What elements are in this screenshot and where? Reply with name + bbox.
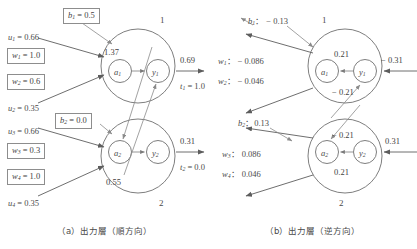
panel-a-node-a1-label: a1 xyxy=(114,68,121,78)
panel-a-node-y1-label: y1 xyxy=(152,68,159,78)
panel-a-input-u1: u1 = 0.66 xyxy=(8,33,39,43)
weight-subscript: 1 xyxy=(18,54,21,60)
node-subscript: 2 xyxy=(156,152,159,158)
panel-b-grad-in-2: 0.31 xyxy=(385,137,400,146)
panel-b-neuron-2-index: 2 xyxy=(339,199,344,208)
weight-value: ： 0.086 xyxy=(231,149,261,159)
panel-a-weight-w1-box: w1 = 1.0 xyxy=(7,48,45,64)
panel-a-caption: （a）出力層（順方向） xyxy=(57,227,152,236)
panel-a-node-y2-label: y2 xyxy=(152,149,159,159)
panel-a-output-2: 0.31 xyxy=(180,137,195,146)
bias-value: ： − 0.13 xyxy=(255,16,288,26)
panel-a-input-u4: u4 = 0.35 xyxy=(8,199,39,209)
node-subscript: 1 xyxy=(156,71,159,77)
panel-a-node-a2-label: a2 xyxy=(114,149,121,159)
panel-b-bias-1-pointer xyxy=(287,26,313,47)
panel-a-neuron-1-index: 1 xyxy=(160,16,165,25)
bias-value: = 0.5 xyxy=(77,10,95,20)
panel-b-neuron-1-index: 1 xyxy=(322,16,327,25)
panel-b-out-arrows-neuron-2 xyxy=(246,128,313,196)
weight-subscript: 3 xyxy=(18,149,21,155)
node-subscript: 2 xyxy=(363,152,366,158)
panel-a-weight-w2-box: w2 = 0.6 xyxy=(7,74,45,90)
panel-a-bias-1-pointer xyxy=(82,23,112,44)
input-value: = 0.66 xyxy=(17,126,39,136)
panel-b-weight-w2-label: w2： − 0.046 xyxy=(218,77,264,87)
input-subscript: 1 xyxy=(12,36,15,42)
panel-a-pre-activation-1: 1.37 xyxy=(104,48,119,57)
node-subscript: 1 xyxy=(325,71,328,77)
bias-value: ：0.13 xyxy=(245,118,269,128)
panel-a-input-u2: u2 = 0.35 xyxy=(8,104,39,114)
node-subscript: 2 xyxy=(118,152,121,158)
panel-b-bias-2-label: b2：0.13 xyxy=(238,119,269,129)
panel-b-weight-w3-label: w3： 0.086 xyxy=(222,150,261,160)
panel-a-target-2: t2 = 0.0 xyxy=(180,163,205,173)
weight-subscript: 4 xyxy=(18,175,21,181)
panel-b-grad-upper-1: 0.21 xyxy=(334,50,349,59)
panel-a-output-1: 0.69 xyxy=(180,56,195,65)
weight-value: = 0.3 xyxy=(23,145,41,155)
panel-b-caption: （b）出力層（逆方向） xyxy=(265,227,360,236)
panel-b-node-y2-label: y2 xyxy=(359,149,366,159)
node-subscript: 1 xyxy=(363,71,366,77)
figure-root: 1 2 b1 = 0.5 b2 = 0.0 u1 = 0.66 u2 = 0.3… xyxy=(0,0,417,249)
panel-b-grad-lower-1: − 0.21 xyxy=(332,88,354,97)
bias-subscript: 1 xyxy=(72,14,75,20)
panel-b-node-a1-label: a1 xyxy=(321,68,328,78)
panel-a-input-arrows-neuron-1 xyxy=(38,38,104,103)
panel-b-node-y1-label: y1 xyxy=(359,68,366,78)
panel-a-target-1: t1 = 1.0 xyxy=(180,82,205,92)
input-value: = 0.35 xyxy=(17,103,39,113)
target-subscript: 2 xyxy=(182,166,185,172)
panel-a-input-u3: u3 = 0.66 xyxy=(8,127,39,137)
panel-b-bias-1-label: b1： − 0.13 xyxy=(248,17,288,27)
node-subscript: 1 xyxy=(118,71,121,77)
input-subscript: 2 xyxy=(12,107,15,113)
input-value: = 0.35 xyxy=(17,198,39,208)
panel-a-input-arrows-neuron-2 xyxy=(38,128,104,196)
target-subscript: 1 xyxy=(182,85,185,91)
input-subscript: 4 xyxy=(12,202,15,208)
weight-value: ： − 0.046 xyxy=(227,76,264,86)
bias-value: = 0.0 xyxy=(69,115,87,125)
weight-value: = 0.6 xyxy=(23,76,41,86)
panel-b-grad-lower-2: 0.21 xyxy=(334,168,349,177)
weight-subscript: 2 xyxy=(18,80,21,86)
weight-value: = 1.0 xyxy=(23,171,41,181)
panel-a-bias-1-box: b1 = 0.5 xyxy=(63,8,100,24)
panel-a-neuron-2-index: 2 xyxy=(159,199,164,208)
node-subscript: 2 xyxy=(325,152,328,158)
weight-value: = 1.0 xyxy=(23,50,41,60)
panel-a-weight-w4-box: w4 = 1.0 xyxy=(7,169,45,185)
weight-value: ： − 0.086 xyxy=(227,56,264,66)
panel-a-weight-w3-box: w3 = 0.3 xyxy=(7,143,45,159)
panel-b-node-a2-label: a2 xyxy=(321,149,328,159)
target-value: = 0.0 xyxy=(187,162,205,172)
input-value: = 0.66 xyxy=(17,32,39,42)
panel-b-out-arrows-neuron-1 xyxy=(246,34,313,113)
panel-b-weight-w4-label: w4： 0.046 xyxy=(222,170,261,180)
panel-b-grad-in-1: − 0.31 xyxy=(381,56,403,65)
input-subscript: 3 xyxy=(12,130,15,136)
panel-b-grad-upper-2: − 0.21 xyxy=(332,131,354,140)
panel-a-bias-2-pointer xyxy=(100,124,112,134)
weight-value: ： 0.046 xyxy=(231,169,261,179)
target-value: = 1.0 xyxy=(187,81,205,91)
bias-subscript: 2 xyxy=(64,119,67,125)
panel-a-pre-activation-2: 0.55 xyxy=(106,178,121,187)
panel-b-weight-w1-label: w1： − 0.086 xyxy=(218,57,264,67)
panel-a-bias-2-box: b2 = 0.0 xyxy=(55,113,92,129)
